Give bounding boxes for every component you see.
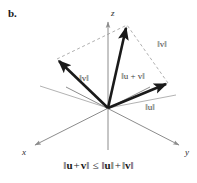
x-axis-line [35,87,150,145]
vectors [59,28,166,108]
dashed-edge-v-to-sum [57,25,127,59]
translated-u-guide-line [108,95,176,108]
vector-v [59,61,108,108]
label-norm-v-right: ‖v‖ [157,39,167,49]
lhs-vector-u: u [66,159,72,171]
x-axis-label: x [21,147,26,157]
rhs-v-close-bars: ‖ [131,159,134,171]
triangle-inequality-equation: ‖u+v‖≤‖u‖+‖v‖ [0,159,197,171]
y-axis-label: y [184,147,189,157]
z-axis-label: z [110,8,115,18]
relation-operator: ≤ [89,159,101,171]
lhs-plus-operator: + [73,159,81,171]
vector-diagram: z x y ‖v‖ ‖v‖ ‖u + v‖ ‖u‖ [0,0,197,183]
vector-u-plus-v [108,28,126,108]
y-axis-line [66,87,179,145]
label-norm-u: ‖u‖ [145,102,155,112]
rhs-plus-operator: + [114,159,122,171]
label-norm-u-plus-v: ‖u + v‖ [121,71,145,81]
vector-figure: b. z x y [0,0,197,183]
vector-u [108,84,166,108]
label-norm-v-left: ‖v‖ [79,73,89,83]
